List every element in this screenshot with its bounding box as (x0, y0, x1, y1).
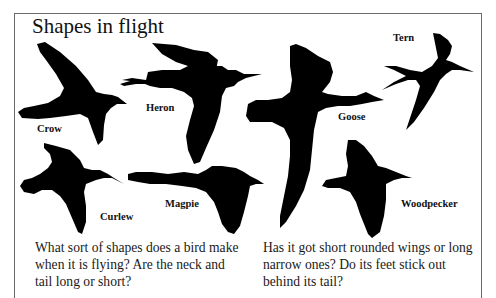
tern-silhouette-icon (382, 33, 474, 130)
paragraph-left: What sort of shapes does a bird make whe… (35, 239, 240, 290)
bird-label-goose: Goose (338, 111, 365, 123)
bird-label-crow: Crow (37, 123, 62, 135)
woodpecker-silhouette-icon (322, 140, 412, 238)
bird-label-tern: Tern (393, 32, 414, 44)
crow-silhouette-icon (18, 42, 127, 145)
heron-silhouette-icon (120, 43, 262, 164)
bird-label-curlew: Curlew (100, 211, 133, 223)
bird-label-magpie: Magpie (165, 198, 199, 210)
bird-label-woodpecker: Woodpecker (401, 198, 458, 210)
bird-label-heron: Heron (146, 102, 174, 114)
paragraph-right: Has it got short rounded wings or long n… (263, 239, 475, 290)
